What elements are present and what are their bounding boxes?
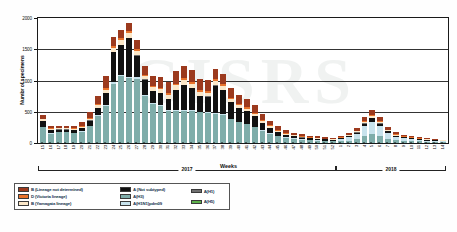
stacked-bar[interactable] bbox=[158, 77, 164, 143]
stacked-bar[interactable] bbox=[369, 110, 375, 143]
stacked-bar[interactable] bbox=[71, 126, 77, 143]
legend-item[interactable]: A(H1) bbox=[191, 188, 226, 195]
stacked-bar[interactable] bbox=[354, 128, 360, 143]
bar-column[interactable] bbox=[274, 18, 282, 143]
bar-column[interactable] bbox=[368, 18, 376, 143]
bar-column[interactable] bbox=[392, 18, 400, 143]
bar-column[interactable] bbox=[165, 18, 173, 143]
bar-column[interactable] bbox=[196, 18, 204, 143]
bar-column[interactable] bbox=[290, 18, 298, 143]
bar-column[interactable] bbox=[63, 18, 71, 143]
bar-column[interactable] bbox=[212, 18, 220, 143]
bar-column[interactable] bbox=[282, 18, 290, 143]
legend-item[interactable]: B (Yamagata lineage) bbox=[18, 200, 120, 207]
bar-column[interactable] bbox=[55, 18, 63, 143]
bar-column[interactable] bbox=[259, 18, 267, 143]
bar-column[interactable] bbox=[384, 18, 392, 143]
stacked-bar[interactable] bbox=[40, 115, 46, 143]
bar-column[interactable] bbox=[180, 18, 188, 143]
stacked-bar[interactable] bbox=[134, 40, 140, 143]
bar-column[interactable] bbox=[110, 18, 118, 143]
stacked-bar[interactable] bbox=[236, 95, 242, 143]
stacked-bar[interactable] bbox=[189, 70, 195, 143]
stacked-bar[interactable] bbox=[150, 76, 156, 143]
bar-column[interactable] bbox=[78, 18, 86, 143]
legend-item[interactable]: D (Victoria lineage) bbox=[18, 193, 120, 200]
stacked-bar[interactable] bbox=[95, 96, 101, 143]
bar-column[interactable] bbox=[337, 18, 345, 143]
bar-column[interactable] bbox=[306, 18, 314, 143]
stacked-bar[interactable] bbox=[377, 117, 383, 143]
bar-column[interactable] bbox=[102, 18, 110, 143]
stacked-bar[interactable] bbox=[228, 88, 234, 143]
stacked-bar[interactable] bbox=[142, 66, 148, 143]
bar-column[interactable] bbox=[47, 18, 55, 143]
stacked-bar[interactable] bbox=[56, 126, 62, 143]
bar-column[interactable] bbox=[416, 18, 424, 143]
stacked-bar[interactable] bbox=[244, 99, 250, 143]
stacked-bar[interactable] bbox=[205, 80, 211, 144]
legend-item[interactable]: B (Lineage not determined) bbox=[18, 186, 120, 193]
bar-column[interactable] bbox=[172, 18, 180, 143]
stacked-bar[interactable] bbox=[220, 74, 226, 143]
bar-column[interactable] bbox=[157, 18, 165, 143]
legend-item[interactable]: A(H1N1)pdm09 bbox=[120, 200, 191, 207]
stacked-bar[interactable] bbox=[166, 82, 172, 143]
bar-column[interactable] bbox=[125, 18, 133, 143]
stacked-bar[interactable] bbox=[64, 126, 70, 143]
bar-column[interactable] bbox=[361, 18, 369, 143]
stacked-bar[interactable] bbox=[126, 23, 132, 143]
bar-column[interactable] bbox=[353, 18, 361, 143]
bar-column[interactable] bbox=[329, 18, 337, 143]
bar-column[interactable] bbox=[227, 18, 235, 143]
bar-column[interactable] bbox=[298, 18, 306, 143]
bar-column[interactable] bbox=[94, 18, 102, 143]
bar-column[interactable] bbox=[149, 18, 157, 143]
stacked-bar[interactable] bbox=[87, 112, 93, 143]
bar-column[interactable] bbox=[235, 18, 243, 143]
bar-column[interactable] bbox=[376, 18, 384, 143]
bar-column[interactable] bbox=[321, 18, 329, 143]
stacked-bar[interactable] bbox=[385, 127, 391, 143]
stacked-bar[interactable] bbox=[103, 76, 109, 143]
stacked-bar[interactable] bbox=[118, 30, 124, 143]
bar-column[interactable] bbox=[314, 18, 322, 143]
legend-item[interactable]: A (Not subtyped) bbox=[120, 186, 191, 193]
bar-column[interactable] bbox=[439, 18, 447, 143]
bar-column[interactable] bbox=[266, 18, 274, 143]
bar-column[interactable] bbox=[204, 18, 212, 143]
bar-column[interactable] bbox=[117, 18, 125, 143]
bar-column[interactable] bbox=[408, 18, 416, 143]
bar-column[interactable] bbox=[70, 18, 78, 143]
stacked-bar[interactable] bbox=[260, 114, 266, 143]
stacked-bar[interactable] bbox=[111, 37, 117, 143]
bar-column[interactable] bbox=[431, 18, 439, 143]
stacked-bar[interactable] bbox=[275, 126, 281, 143]
bar-column[interactable] bbox=[39, 18, 47, 143]
x-tick-label: 15 bbox=[39, 145, 44, 149]
legend-item[interactable]: A(H5) bbox=[191, 198, 226, 205]
stacked-bar[interactable] bbox=[79, 122, 85, 143]
bar-column[interactable] bbox=[141, 18, 149, 143]
bar-column[interactable] bbox=[133, 18, 141, 143]
bar-column[interactable] bbox=[219, 18, 227, 143]
bar-column[interactable] bbox=[251, 18, 259, 143]
stacked-bar[interactable] bbox=[362, 117, 368, 143]
stacked-bar[interactable] bbox=[181, 66, 187, 143]
stacked-bar[interactable] bbox=[197, 79, 203, 143]
x-tick-label: 40 bbox=[236, 145, 241, 149]
x-tick-cell: 13 bbox=[430, 142, 438, 164]
stacked-bar[interactable] bbox=[213, 69, 219, 143]
stacked-bar[interactable] bbox=[252, 105, 258, 143]
stacked-bar[interactable] bbox=[173, 71, 179, 143]
bar-column[interactable] bbox=[400, 18, 408, 143]
bar-column[interactable] bbox=[86, 18, 94, 143]
bar-column[interactable] bbox=[188, 18, 196, 143]
legend-item[interactable]: A(H3) bbox=[120, 193, 191, 200]
bar-column[interactable] bbox=[423, 18, 431, 143]
x-tick-mark bbox=[159, 142, 160, 144]
stacked-bar[interactable] bbox=[48, 126, 54, 143]
stacked-bar[interactable] bbox=[267, 121, 273, 144]
bar-column[interactable] bbox=[243, 18, 251, 143]
bar-column[interactable] bbox=[345, 18, 353, 143]
